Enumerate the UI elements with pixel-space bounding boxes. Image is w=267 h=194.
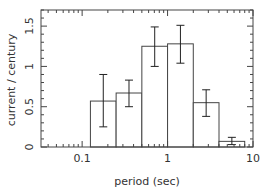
histogram-bars [90,44,244,147]
y-tick-label: 1.5 [23,17,36,34]
x-tick-labels: 0.1110 [73,152,260,165]
x-tick-label: 1 [164,152,171,165]
y-tick-label: 0 [23,144,36,151]
x-tick-label: 0.1 [73,152,91,165]
x-axis-label: period (sec) [114,175,180,188]
y-tick-label: 0.5 [23,98,36,116]
y-tick-label: 1 [23,63,36,70]
y-tick-labels: 00.511.5 [23,17,36,150]
y-axis-label: current / century [5,33,18,126]
x-tick-label: 10 [246,152,260,165]
histogram-chart: 0.1110 00.511.5 period (sec) current / c… [0,0,267,194]
